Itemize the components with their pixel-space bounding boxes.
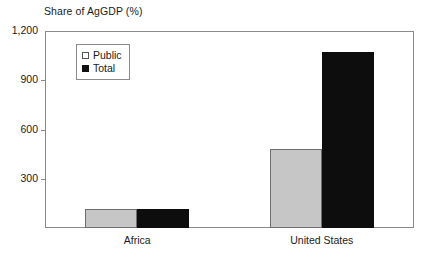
x-axis-label: Africa [77, 234, 197, 247]
legend-item-public: Public [82, 49, 122, 62]
chart-legend: PublicTotal [76, 44, 130, 80]
legend-item-label: Total [93, 62, 115, 75]
bar-chart-figure: Share of AgGDP (%) 1,200900600300 Africa… [0, 0, 430, 259]
bar-united-states-total [322, 52, 374, 228]
bar-africa-total [137, 209, 189, 228]
y-axis-tick-label: 900 [20, 73, 38, 86]
y-axis-tick-label: 1,200 [12, 24, 38, 37]
legend-item-total: Total [82, 62, 122, 75]
y-axis-tick-label: 300 [20, 172, 38, 185]
legend-swatch-public-icon [82, 52, 89, 59]
bar-africa-public [85, 209, 137, 228]
legend-item-label: Public [93, 49, 122, 62]
x-axis-label: United States [262, 234, 382, 247]
chart-title: Share of AgGDP (%) [44, 5, 142, 18]
bar-united-states-public [270, 149, 322, 228]
legend-swatch-total-icon [82, 65, 89, 72]
y-axis-tick-label: 600 [20, 123, 38, 136]
